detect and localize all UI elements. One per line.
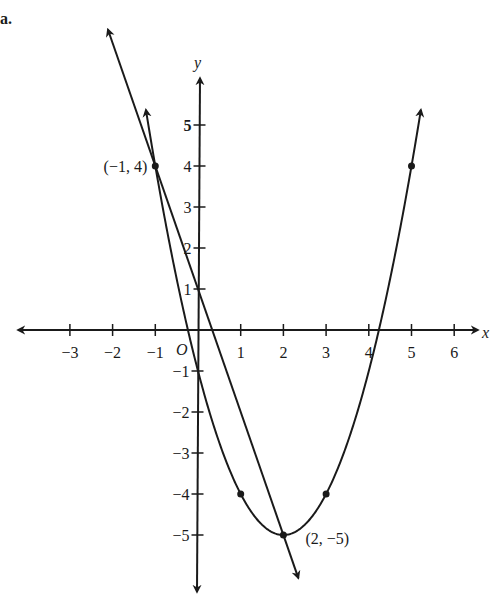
data-point — [237, 491, 244, 498]
x-tick-label: 6 — [450, 344, 458, 361]
y-axis-label: y — [192, 54, 202, 72]
y-tick-label: −2 — [172, 404, 189, 421]
x-tick-label: 5 — [408, 344, 416, 361]
y-tick-label: 2 — [184, 240, 192, 257]
data-point — [152, 163, 159, 170]
x-tick-label: 2 — [279, 344, 287, 361]
y-tick-label: −3 — [172, 445, 189, 462]
y-tick-label: 1 — [184, 281, 192, 298]
y-tick-label: 3 — [184, 199, 192, 216]
annotation-vertex: (2, −5) — [305, 530, 349, 548]
y-tick-label: 4 — [184, 158, 192, 175]
x-tick-label: −3 — [61, 344, 78, 361]
y-tick-label: −5 — [172, 527, 189, 544]
x-tick-label: 1 — [237, 344, 245, 361]
y-axis — [197, 78, 200, 592]
x-tick-label: −1 — [147, 344, 164, 361]
curves — [108, 29, 421, 578]
x-axis-label: x — [481, 324, 489, 341]
coordinate-plot: a. xyO−3−2−1123456−5−4−3−2−112345(−1, 4)… — [0, 0, 492, 607]
y-tick-label: −1 — [172, 363, 189, 380]
x-tick-label: 4 — [365, 344, 373, 361]
x-tick-label: −2 — [104, 344, 121, 361]
problem-label: a. — [0, 10, 12, 27]
x-tick-label: 3 — [322, 344, 330, 361]
y-tick-label: 5 — [184, 117, 192, 134]
data-point — [323, 491, 330, 498]
line-curve — [108, 29, 298, 578]
axes — [18, 78, 478, 592]
data-point — [408, 163, 415, 170]
labels: xyO−3−2−1123456−5−4−3−2−112345(−1, 4)(2,… — [61, 54, 489, 548]
annotation-point-neg1-4: (−1, 4) — [104, 158, 148, 176]
data-point — [280, 532, 287, 539]
y-tick-label: −4 — [172, 486, 189, 503]
origin-label: O — [176, 341, 188, 358]
